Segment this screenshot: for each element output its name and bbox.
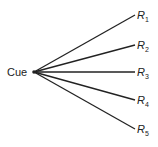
response-label-r5: R5 [137,123,149,137]
cue-label: Cue [7,66,27,78]
cue-node [32,70,36,74]
response-label-r2: R2 [137,39,149,53]
response-label-r1: R1 [137,9,149,23]
response-label-r4: R4 [137,94,149,108]
line-r4 [34,72,135,100]
response-lines [34,15,135,129]
response-label-r3: R3 [137,66,149,80]
line-r5 [34,72,135,129]
line-r2 [34,45,135,72]
line-r1 [34,15,135,72]
cue-response-diagram: Cue R1 R2 R3 R4 R5 [0,0,158,147]
